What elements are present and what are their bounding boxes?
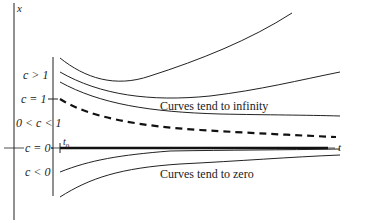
t0-label-sub: 0 <box>66 142 70 150</box>
annotation-tend-to-infinity: Curves tend to infinity <box>160 100 268 112</box>
curve-c-greater-1-middle <box>60 72 340 98</box>
x-axis-label: x <box>17 3 22 14</box>
annotation-tend-to-zero: Curves tend to zero <box>160 168 254 180</box>
region-label-c-equals-1: c = 1 <box>21 93 46 105</box>
curve-c-greater-1-top <box>60 13 292 81</box>
solution-curves-diagram: x t t0 c > 1 c = 1 0 < c < 1 c = 0 c < 0… <box>0 0 365 223</box>
region-label-c-between: 0 < c < 1 <box>16 117 62 129</box>
region-label-c-less-0: c < 0 <box>25 166 50 178</box>
region-label-c-equals-0: c = 0 <box>24 142 51 154</box>
t-axis-label: t <box>338 142 341 153</box>
t0-label: t0 <box>63 137 69 150</box>
region-label-c-greater-1: c > 1 <box>23 69 48 81</box>
